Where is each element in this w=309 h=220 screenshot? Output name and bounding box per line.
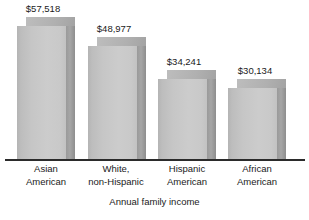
bar-top-shading	[97, 37, 146, 46]
x-tick-label-line: American	[8, 176, 84, 189]
x-axis-line	[5, 159, 305, 161]
bar-value-label: $57,518	[14, 3, 72, 14]
x-tick-label-line: Asian	[8, 163, 84, 176]
bar-group[interactable]	[228, 79, 286, 160]
x-tick-label-line: American	[149, 176, 225, 189]
bar-top-face	[167, 70, 216, 79]
bar-front-face	[228, 88, 277, 160]
x-tick-label-line: Hispanic	[149, 163, 225, 176]
x-tick-label-line: American	[219, 176, 295, 189]
bar-front-face	[158, 79, 207, 160]
bar-value-label: $30,134	[226, 65, 284, 76]
bar-side-face	[277, 88, 286, 160]
bar-top-shading	[167, 70, 216, 79]
bar-group[interactable]	[158, 70, 216, 160]
bar-value-label: $48,977	[85, 23, 143, 34]
x-tick-label-asian-american: Asian American	[8, 163, 84, 188]
x-tick-label-white-non-hispanic: White, non-Hispanic	[78, 163, 154, 188]
bar-top-shading	[26, 17, 75, 26]
bar-top-face	[237, 79, 286, 88]
bar-value-label: $34,241	[155, 56, 213, 67]
bar-group[interactable]	[17, 17, 75, 160]
bar-top-face	[26, 17, 75, 26]
x-axis-title: Annual family income	[0, 196, 309, 208]
x-tick-label-african-american: African American	[219, 163, 295, 188]
bar-front-face	[17, 26, 66, 160]
bar-side-face	[137, 46, 146, 160]
bar-chart: $57,518 $48,977 $34,241 $30,134 Asian Am…	[0, 0, 309, 220]
x-tick-label-line: African	[219, 163, 295, 176]
bar-top-face	[97, 37, 146, 46]
bar-top-shading	[237, 79, 286, 88]
x-tick-label-line: non-Hispanic	[78, 176, 154, 189]
bar-group[interactable]	[88, 37, 146, 160]
bar-side-face	[207, 79, 216, 160]
bar-side-face	[66, 26, 75, 160]
bar-front-face	[88, 46, 137, 160]
x-tick-label-hispanic-american: Hispanic American	[149, 163, 225, 188]
x-tick-label-line: White,	[78, 163, 154, 176]
x-axis-tick-labels: Asian American White, non-Hispanic Hispa…	[0, 163, 309, 193]
plot-area: $57,518 $48,977 $34,241 $30,134	[0, 0, 309, 161]
